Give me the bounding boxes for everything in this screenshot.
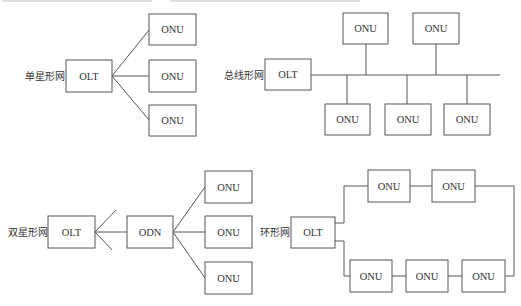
onu-node: ONU [385, 104, 431, 135]
odn-node: ODN [127, 216, 173, 248]
single-star-topology: 单星形网 OLT ONU ONU ONU [25, 14, 196, 136]
svg-text:ONU: ONU [416, 271, 439, 282]
onu-node: ONU [368, 170, 410, 202]
ring-label: 环形网 [260, 227, 290, 238]
svg-text:ODN: ODN [139, 227, 162, 238]
svg-text:ONU: ONU [397, 114, 420, 125]
svg-text:ONU: ONU [161, 115, 184, 126]
onu-node: ONU [149, 14, 196, 45]
svg-text:ONU: ONU [442, 181, 465, 192]
cropped-text-line [300, 0, 360, 2]
onu-node: ONU [406, 260, 448, 292]
bus-label: 总线形网 [224, 69, 264, 81]
onu-node: ONU [205, 262, 252, 294]
svg-text:OLT: OLT [303, 227, 323, 238]
ring-topology: 环形网 OLT ONU ONU ONU ONU ONU [260, 170, 514, 292]
svg-text:ONU: ONU [336, 114, 359, 125]
bus-topology: 总线形网 OLT ONU ONU ONU ONU ONU [224, 13, 500, 135]
svg-text:ONU: ONU [354, 23, 377, 34]
svg-text:OLT: OLT [79, 71, 99, 82]
onu-node: ONU [413, 13, 459, 44]
svg-text:ONU: ONU [161, 24, 184, 35]
svg-text:ONU: ONU [217, 227, 240, 238]
onu-node: ONU [325, 104, 370, 135]
svg-text:ONU: ONU [472, 271, 495, 282]
svg-text:OLT: OLT [62, 227, 82, 238]
onu-node: ONU [149, 60, 196, 92]
onu-node: ONU [343, 13, 388, 44]
svg-text:ONU: ONU [378, 181, 401, 192]
onu-node: ONU [205, 216, 252, 248]
olt-node: OLT [66, 60, 112, 92]
svg-text:ONU: ONU [456, 114, 479, 125]
olt-node: OLT [265, 59, 311, 90]
onu-node: ONU [350, 260, 392, 292]
onu-node: ONU [149, 105, 196, 136]
svg-text:ONU: ONU [217, 182, 240, 193]
svg-text:ONU: ONU [360, 271, 383, 282]
onu-node: ONU [444, 104, 490, 135]
olt-node: OLT [48, 216, 95, 248]
olt-node: OLT [291, 217, 335, 248]
double-star-label: 双星形网 [8, 227, 48, 238]
svg-text:ONU: ONU [161, 71, 184, 82]
cropped-text-line [2, 0, 152, 2]
double-star-topology: 双星形网 OLT ODN ONU ONU ONU [8, 171, 252, 294]
onu-node: ONU [462, 260, 505, 292]
onu-node: ONU [205, 171, 252, 203]
svg-text:ONU: ONU [217, 273, 240, 284]
cropped-text-line [170, 0, 310, 2]
svg-text:OLT: OLT [278, 69, 298, 80]
svg-text:ONU: ONU [425, 23, 448, 34]
pon-topology-diagram: 单星形网 OLT ONU ONU ONU 总线形网 OLT [0, 0, 521, 306]
onu-node: ONU [432, 170, 475, 202]
single-star-label: 单星形网 [25, 71, 65, 82]
